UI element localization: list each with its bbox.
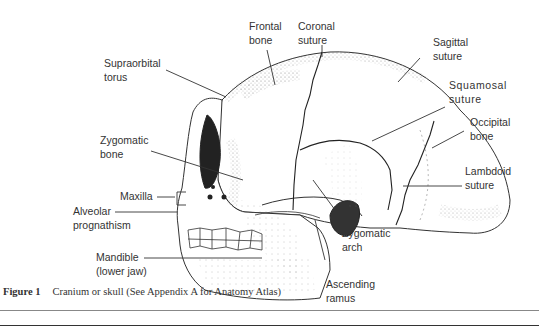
label-supraorbital-torus: Supraorbital torus xyxy=(104,57,161,84)
figure-number: Figure 1 xyxy=(3,286,40,297)
label-occipital-bone: Occipital bone xyxy=(470,116,510,143)
label-maxilla: Maxilla xyxy=(120,190,153,204)
figure-caption: Figure 1Cranium or skull (See Appendix A… xyxy=(3,286,281,297)
label-alveolar-prognathism: Alveolar prognathism xyxy=(73,205,131,232)
label-coronal-suture: Coronal suture xyxy=(298,20,335,47)
label-squamosal-suture: Squamosal suture xyxy=(449,79,507,106)
label-zygomatic-arch: Zygomatic arch xyxy=(342,227,390,254)
label-lambdoid-suture: Lambdoid suture xyxy=(465,165,511,192)
label-ascending-ramus: Ascending ramus xyxy=(326,278,375,305)
figure-caption-text: Cranium or skull (See Appendix A for Ana… xyxy=(52,286,281,297)
skull-figure: Frontal bone Coronal suture Sagittal sut… xyxy=(0,0,539,326)
divider-line xyxy=(0,310,539,311)
label-mandible: Mandible (lower jaw) xyxy=(96,251,147,278)
label-frontal-bone: Frontal bone xyxy=(249,20,282,47)
label-zygomatic-bone: Zygomatic bone xyxy=(100,134,148,161)
label-sagittal-suture: Sagittal suture xyxy=(433,36,468,63)
